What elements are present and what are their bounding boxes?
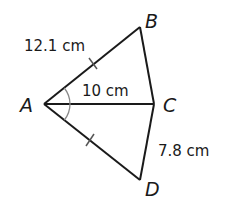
segment-ad: [44, 104, 140, 180]
vertex-label-b: B: [145, 10, 158, 32]
angle-arc-cad: [64, 104, 70, 120]
tick-mark-ad: [86, 134, 94, 146]
measurement-cd: 7.8 cm: [158, 142, 209, 160]
vertex-label-c: C: [163, 94, 177, 116]
vertex-label-a: A: [18, 94, 33, 116]
vertex-label-d: D: [145, 178, 160, 200]
angle-arc-bac: [64, 88, 70, 104]
triangle-diagram: A B C D 12.1 cm 10 cm 7.8 cm: [0, 0, 231, 208]
segment-bc: [140, 27, 154, 104]
measurement-ac: 10 cm: [82, 82, 129, 100]
segment-cd: [140, 104, 154, 180]
measurement-ab: 12.1 cm: [24, 37, 85, 55]
